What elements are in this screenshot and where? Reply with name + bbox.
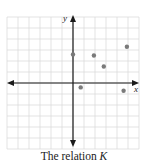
coordinate-plane: x y	[0, 0, 148, 150]
y-axis-down-arrow-icon	[70, 140, 76, 147]
data-points	[71, 45, 129, 93]
data-point	[125, 45, 129, 49]
x-axis-label: x	[133, 84, 138, 94]
caption-variable: K	[100, 150, 108, 162]
data-point	[71, 52, 75, 56]
y-axis-up-arrow-icon	[70, 15, 76, 22]
data-point	[92, 53, 96, 57]
data-point	[79, 85, 83, 89]
data-point	[121, 89, 125, 93]
data-point	[102, 64, 106, 68]
y-axis-label: y	[62, 13, 67, 23]
figure-caption: The relation K	[0, 150, 148, 162]
caption-text: The relation	[41, 150, 100, 162]
x-axis-left-arrow-icon	[7, 80, 14, 86]
